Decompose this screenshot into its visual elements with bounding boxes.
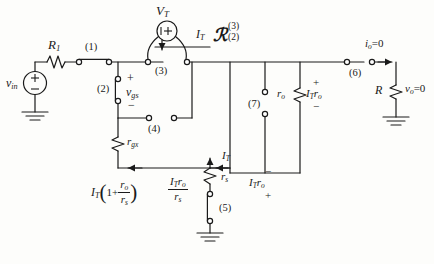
it-ro-drop-plus-sign: + bbox=[265, 190, 271, 201]
resistor-rs-symbol bbox=[204, 168, 216, 184]
node-label-4: (4) bbox=[148, 124, 160, 135]
node-7-terminals bbox=[262, 89, 267, 116]
node-label-5: (5) bbox=[219, 203, 231, 214]
label-vin: vin bbox=[6, 77, 18, 91]
label-it-total-expression: IT(1+ ro rs ) bbox=[91, 178, 137, 208]
label-r1: R1 bbox=[48, 38, 60, 53]
node-label-3: (3) bbox=[155, 66, 167, 77]
node-label-6: (6) bbox=[349, 68, 361, 79]
vgs-minus-sign: − bbox=[128, 99, 135, 111]
ground-symbol-input bbox=[22, 112, 48, 120]
label-vo-zero: vo=0 bbox=[405, 83, 425, 96]
circuit-diagram-figure: vin R1 (1) (2) + vgs − VT IT (3) (4) ℛ (… bbox=[0, 0, 434, 264]
node-4-terminals bbox=[146, 115, 176, 120]
node-label-2: (2) bbox=[97, 84, 109, 95]
label-it-ro-source: ITro bbox=[306, 88, 322, 101]
resistor-r1-symbol bbox=[47, 56, 65, 68]
input-source-symbol bbox=[24, 62, 47, 112]
ground-symbol-output bbox=[383, 117, 409, 125]
test-source-polarity bbox=[161, 27, 172, 35]
node-label-7: (7) bbox=[248, 99, 260, 110]
ground-symbol-rs bbox=[197, 233, 223, 241]
label-rgx: rgx bbox=[127, 136, 138, 149]
vgs-plus-sign: + bbox=[127, 72, 134, 84]
resistor-rgx-symbol bbox=[112, 137, 124, 151]
label-vt: VT bbox=[156, 4, 169, 19]
label-ro: ro bbox=[277, 88, 285, 101]
label-rload: R bbox=[375, 84, 382, 96]
it-ro-minus-sign: − bbox=[313, 101, 319, 112]
node-1-terminals bbox=[76, 59, 111, 64]
label-it-ro-drop: ITro bbox=[249, 177, 265, 190]
vt-right-lead bbox=[176, 37, 187, 60]
label-it-test: IT bbox=[196, 28, 205, 42]
label-it-ro-over-rs: ITro rs bbox=[168, 175, 188, 205]
label-io-zero: io=0 bbox=[365, 38, 384, 51]
node-label-1: (1) bbox=[85, 42, 97, 53]
vt-left-lead bbox=[148, 37, 159, 60]
label-it-branch: IT bbox=[222, 150, 230, 163]
node-5-terminals bbox=[207, 191, 212, 223]
node-2-terminals bbox=[115, 76, 120, 103]
it-ro-drop-minus-sign: − bbox=[265, 166, 271, 177]
label-resistance-symbol: ℛ (3) (2) bbox=[213, 26, 238, 47]
resistor-ro-symbol bbox=[294, 88, 306, 102]
label-rs: rs bbox=[221, 171, 228, 184]
input-source-polarity bbox=[31, 74, 39, 89]
resistor-rload-symbol bbox=[390, 85, 402, 99]
